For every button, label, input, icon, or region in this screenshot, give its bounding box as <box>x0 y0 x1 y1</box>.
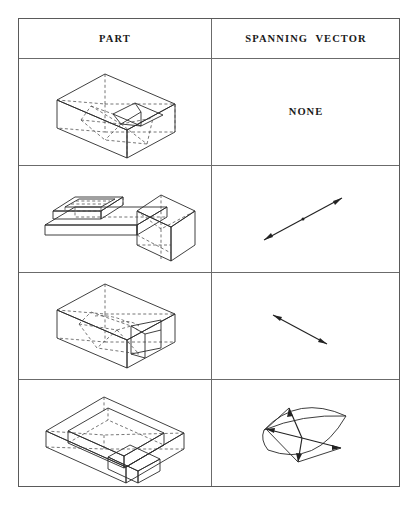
vector-cell-row-2 <box>211 165 401 272</box>
part-cell-row-1 <box>19 58 211 165</box>
vector-cell-row-3 <box>211 272 401 379</box>
part-drawing-block-with-through-cavity <box>35 276 195 376</box>
part-cell-row-2 <box>19 165 211 272</box>
part-drawing-open-tray-with-pocket <box>30 383 200 485</box>
spanning-vector-lens-row-4 <box>246 392 366 476</box>
spanning-vector-table: PART SPANNING VECTOR <box>18 18 400 487</box>
spanning-vector-none-label: NONE <box>289 106 323 117</box>
figure-page: PART SPANNING VECTOR <box>0 0 419 505</box>
part-drawing-l-bracket-with-slot <box>31 169 199 269</box>
part-cell-row-4 <box>19 379 211 488</box>
column-header-part: PART <box>19 19 211 58</box>
part-cell-row-3 <box>19 272 211 379</box>
vector-cell-row-1: NONE <box>211 58 401 165</box>
spanning-vector-arrow-row-2 <box>246 184 366 254</box>
spanning-vector-arrow-row-3 <box>251 291 361 361</box>
column-header-spanning-vector: SPANNING VECTOR <box>211 19 401 58</box>
vector-cell-row-4 <box>211 379 401 488</box>
part-drawing-block-with-triangular-pocket <box>35 62 195 162</box>
